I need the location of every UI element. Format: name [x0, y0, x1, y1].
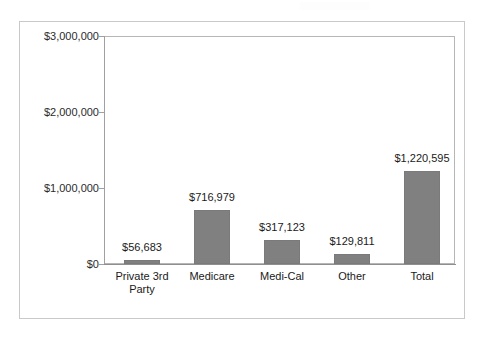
x-category-label-total: Total — [390, 270, 454, 283]
scan-artifact — [300, 2, 370, 10]
y-tick-label-3000000: $3,000,000 — [3, 31, 99, 42]
x-axis-line — [104, 264, 456, 265]
bar-label-total: $1,220,595 — [376, 152, 468, 164]
y-tick-mark-1000000 — [99, 188, 104, 189]
bar-medicare — [194, 210, 230, 265]
y-tick-label-1000000: $1,000,000 — [3, 183, 99, 194]
x-category-label-medi-cal: Medi-Cal — [250, 270, 314, 283]
x-category-label-medicare: Medicare — [180, 270, 244, 283]
y-tick-label-2000000: $2,000,000 — [3, 107, 99, 118]
x-category-label-other: Other — [320, 270, 384, 283]
bar-label-medi-cal: $317,123 — [236, 221, 328, 233]
bar-private-3rd-party — [124, 260, 160, 264]
bar-medi-cal — [264, 240, 300, 264]
y-tick-mark-2000000 — [99, 112, 104, 113]
y-tick-mark-3000000 — [99, 36, 104, 37]
y-tick-mark-0 — [99, 264, 104, 265]
y-axis-tick-labels: $3,000,000 $2,000,000 $1,000,000 $0 — [0, 0, 99, 338]
bar-label-other: $129,811 — [306, 235, 398, 247]
bar-other — [334, 254, 370, 264]
bar-label-medicare: $716,979 — [166, 191, 258, 203]
bar-total — [404, 171, 440, 264]
bar-label-private-3rd-party: $56,683 — [96, 241, 188, 253]
x-category-label-private-3rd-party: Private 3rd Party — [110, 270, 174, 296]
y-axis-line — [104, 36, 105, 265]
bar-chart-figure: $3,000,000 $2,000,000 $1,000,000 $0 $56,… — [0, 0, 489, 338]
y-tick-label-0: $0 — [3, 259, 99, 270]
